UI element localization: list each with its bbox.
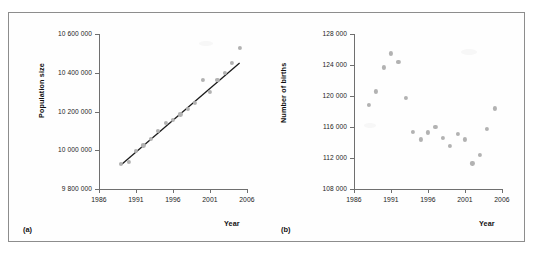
x-axis-tick (173, 189, 174, 193)
data-point (493, 106, 497, 110)
x-axis-tick-label: 2006 (231, 196, 263, 203)
panel-a-x-axis-title: Year (224, 219, 240, 228)
x-axis-tick (428, 189, 429, 193)
y-axis-tick (350, 158, 354, 159)
y-axis-tick-label: 10 000 000 (32, 146, 92, 153)
data-point (441, 136, 445, 140)
panel-b-plot-area: 108 000112 000116 000120 000124 000128 0… (354, 34, 502, 189)
x-axis-tick-label: 1991 (375, 196, 407, 203)
chart-panel-a: Population size 9 800 00010 000 00010 20… (9, 13, 267, 243)
data-point (367, 103, 371, 107)
x-axis-tick-label: 1996 (412, 196, 444, 203)
data-point (463, 137, 467, 141)
figure-frame: Population size 9 800 00010 000 00010 20… (8, 12, 525, 242)
data-point (478, 153, 482, 157)
y-axis-tick (350, 65, 354, 66)
x-axis-tick-label: 1996 (157, 196, 189, 203)
x-axis-tick (136, 189, 137, 193)
x-axis-tick-label: 1991 (120, 196, 152, 203)
x-axis-tick (354, 189, 355, 193)
x-axis-tick-label: 1986 (338, 196, 370, 203)
panel-b-key: (b) (281, 225, 290, 234)
y-axis-tick-label: 120 000 (287, 92, 347, 99)
panel-b-x-axis-title: Year (479, 219, 495, 228)
panel-a-key: (a) (23, 225, 32, 234)
x-axis-tick-label: 2001 (449, 196, 481, 203)
data-point (470, 161, 474, 165)
y-axis-tick-label: 10 600 000 (32, 30, 92, 37)
y-axis-tick-label: 124 000 (287, 61, 347, 68)
x-axis-tick-label: 1986 (83, 196, 115, 203)
data-point (411, 130, 415, 134)
data-point (448, 144, 452, 148)
data-point (426, 130, 430, 134)
data-point (419, 137, 423, 141)
y-axis-tick-label: 112 000 (287, 154, 347, 161)
data-point (374, 89, 378, 93)
y-axis-tick (350, 34, 354, 35)
x-axis-tick (210, 189, 211, 193)
y-axis-tick-label: 108 000 (287, 185, 347, 192)
y-axis-tick-label: 10 400 000 (32, 69, 92, 76)
y-axis-tick (350, 96, 354, 97)
x-axis-tick (247, 189, 248, 193)
x-axis-tick-label: 2001 (194, 196, 226, 203)
y-axis-tick (350, 127, 354, 128)
data-point (456, 132, 460, 136)
y-axis-tick-label: 10 200 000 (32, 108, 92, 115)
panel-a-plot-area: 9 800 00010 000 00010 200 00010 400 0001… (99, 34, 247, 189)
x-axis-tick (391, 189, 392, 193)
chart-panel-b: Number of births 108 000112 000116 00012… (267, 13, 525, 243)
data-point (404, 95, 408, 99)
data-point (433, 125, 437, 129)
y-axis-tick-label: 128 000 (287, 30, 347, 37)
x-axis-tick (99, 189, 100, 193)
x-axis-tick-label: 2006 (486, 196, 518, 203)
x-axis-tick (502, 189, 503, 193)
x-axis-tick (465, 189, 466, 193)
y-axis-tick-label: 9 800 000 (32, 185, 92, 192)
data-point (382, 65, 386, 69)
y-axis-line (354, 34, 355, 189)
data-point (485, 126, 489, 130)
trend-line (99, 34, 247, 189)
data-point (389, 51, 393, 55)
y-axis-tick-label: 116 000 (287, 123, 347, 130)
data-point (396, 60, 400, 64)
